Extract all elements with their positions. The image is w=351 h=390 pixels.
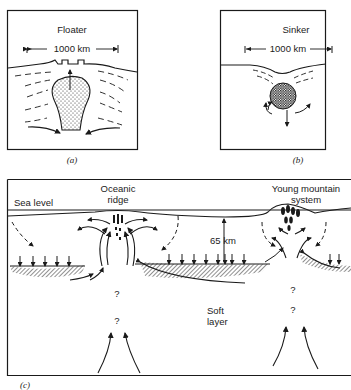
sinker-left-arrow (268, 102, 272, 110)
left-lithosphere (10, 265, 85, 277)
panel-b-sinker: Sinker 1000 km (b) (221, 11, 333, 166)
sinker-title: Sinker (283, 24, 310, 35)
floater-plume (52, 76, 90, 130)
sinker-blob (270, 83, 296, 109)
sinker-layers (253, 70, 313, 84)
floater-title: Floater (57, 24, 87, 35)
ridge-dikes (113, 214, 123, 240)
sea-level-label: Sea level (14, 197, 53, 208)
mountain-label-line1: Young mountain (272, 183, 340, 194)
right-lithosphere (300, 254, 351, 272)
caption-b: (b) (293, 155, 304, 165)
panel-b-frame (221, 11, 326, 150)
ridge-dashed-flows (12, 216, 178, 250)
scale-label-b: 1000 km (270, 43, 307, 54)
ridge-label-line2: ridge (107, 194, 128, 205)
unknown-mark-3: ? (290, 284, 295, 295)
mountain-label-line2: system (291, 194, 321, 205)
ridge-label-line1: Oceanic (101, 183, 136, 194)
unknown-mark-1: ? (114, 288, 119, 299)
floater-left-arrow (28, 127, 60, 133)
mantle-convection-diagram: Floater 1000 km (0, 0, 351, 390)
scale-bar-a: 1000 km (27, 43, 118, 54)
soft-layer-line2: layer (207, 316, 228, 327)
mountain-roots (281, 205, 300, 231)
deep-upwelling-arrows (98, 327, 318, 373)
scale-label-a: 1000 km (54, 43, 91, 54)
unknown-mark-4: ? (290, 304, 295, 315)
floater-surface (8, 60, 137, 72)
caption-a: (a) (67, 155, 78, 165)
unknown-mark-2: ? (114, 315, 119, 326)
caption-c: (c) (20, 380, 30, 390)
soft-layer-line1: Soft (207, 305, 224, 316)
panel-c-convection: Sea level Oceanic ridge Young mountain s… (8, 180, 351, 390)
sinker-right-curl (295, 104, 310, 113)
depth-label: 65 km (210, 235, 236, 246)
panel-a-floater: Floater 1000 km (8, 11, 138, 166)
scale-bar-b: 1000 km (245, 43, 332, 54)
mountain-dashed-flows (262, 222, 326, 246)
floater-right-arrow (86, 128, 120, 134)
